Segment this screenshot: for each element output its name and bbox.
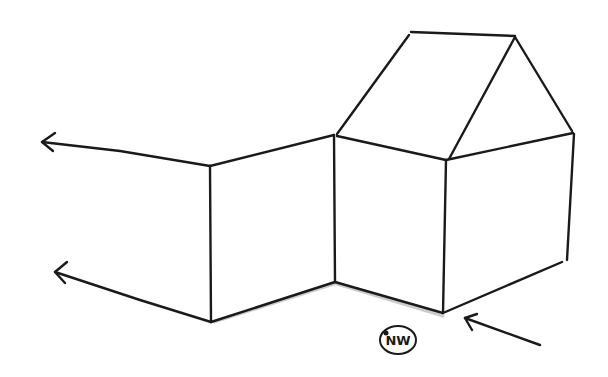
adjoining-wall [42,133,335,322]
sketch-canvas: NW [0,0,608,377]
direction-label-text: NW [385,333,410,348]
direction-arrow [465,314,540,345]
house-eaves-right [446,133,573,160]
wall-top-edge [210,135,334,166]
arrowhead-left-bottom-icon [55,262,67,283]
house [334,32,574,316]
house-right-edge [567,134,574,260]
wall-bottom-extension-arrow [55,272,211,322]
house-base-left [335,282,443,313]
wall-left-edge [210,166,211,322]
roof-front-slope [449,37,515,159]
wall-bottom-edge [211,282,335,322]
roof-left-slope [337,35,409,134]
house-base-shadow [337,284,443,316]
house-front-corner-edge [443,160,446,313]
roof-ridge [411,32,515,36]
direction-arrow-shaft [465,318,540,345]
house-base-right [443,262,562,313]
wall-top-extension-arrow [42,142,210,166]
house-left-edge [334,135,335,282]
direction-label: NW [380,326,416,354]
house-eaves-left [337,136,446,160]
roof-right-slope [515,37,572,131]
